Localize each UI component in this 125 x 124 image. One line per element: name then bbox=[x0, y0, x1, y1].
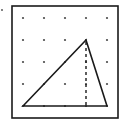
grid-dot bbox=[106, 83, 108, 85]
grid-dot bbox=[43, 61, 45, 63]
grid-dot bbox=[43, 17, 45, 19]
grid-dot bbox=[85, 17, 87, 19]
grid-dot bbox=[22, 83, 24, 85]
triangle-shape bbox=[23, 40, 107, 106]
grid-dot bbox=[106, 61, 108, 63]
grid-dot bbox=[64, 39, 66, 41]
grid-dot bbox=[22, 61, 24, 63]
grid-dot bbox=[43, 39, 45, 41]
grid-dot bbox=[64, 17, 66, 19]
grid-dot bbox=[22, 39, 24, 41]
item-marker-dot bbox=[1, 9, 3, 11]
grid-dot bbox=[22, 17, 24, 19]
grid-dot bbox=[64, 83, 66, 85]
geoboard-diagram bbox=[0, 0, 125, 124]
grid-dot bbox=[106, 39, 108, 41]
grid-dot bbox=[106, 17, 108, 19]
marker-dot bbox=[1, 9, 3, 11]
